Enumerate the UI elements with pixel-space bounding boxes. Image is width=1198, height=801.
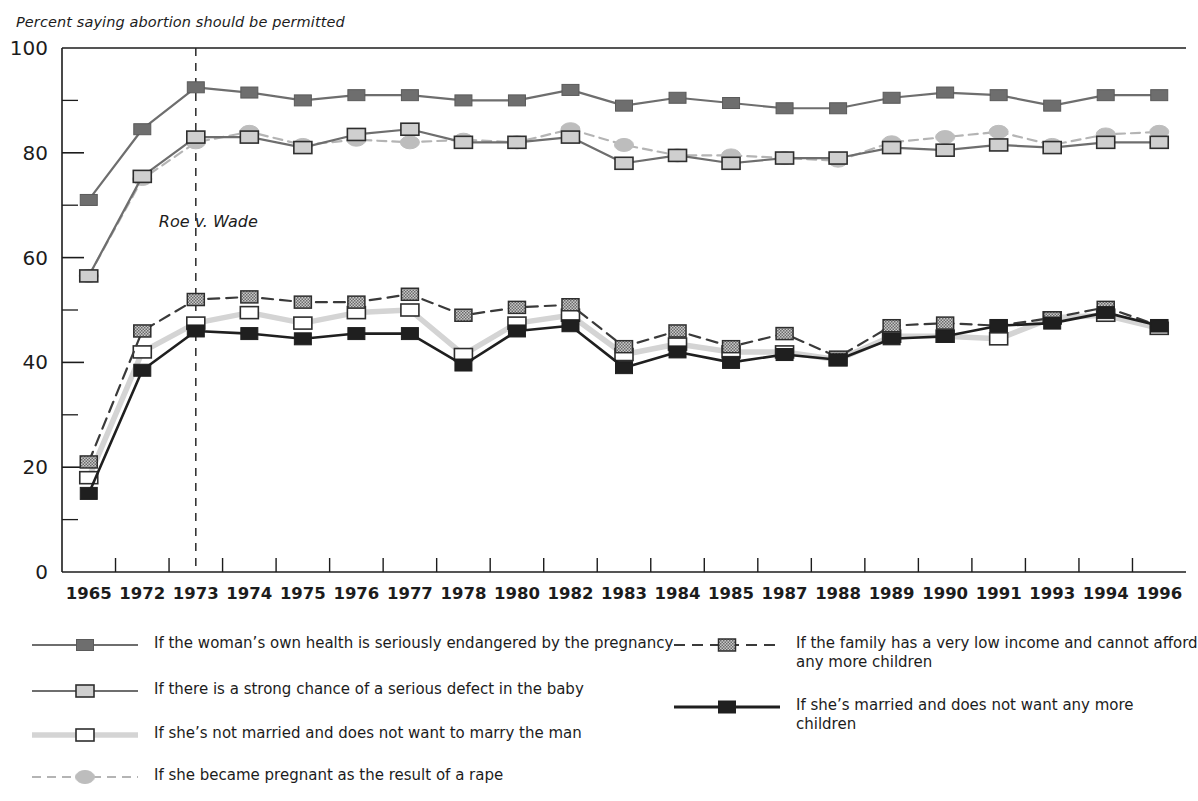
y-tick-label: 80 xyxy=(4,141,48,165)
legend-label-defect: If there is a strong chance of a serious… xyxy=(140,680,584,699)
data-marker xyxy=(240,307,258,319)
x-tick-label: 1978 xyxy=(440,584,486,603)
data-marker xyxy=(455,95,472,106)
legend-swatch-wrap-rape xyxy=(30,766,140,788)
y-tick-label: 40 xyxy=(4,350,48,374)
legend-swatch-low-income xyxy=(672,634,782,656)
data-marker xyxy=(133,346,151,358)
x-tick-label: 1977 xyxy=(387,584,433,603)
data-marker xyxy=(990,90,1007,101)
data-marker xyxy=(348,90,365,101)
x-tick-label: 1990 xyxy=(922,584,968,603)
data-marker xyxy=(722,157,740,169)
data-marker xyxy=(776,328,793,340)
data-marker xyxy=(936,131,955,144)
data-marker xyxy=(936,144,954,156)
data-marker xyxy=(937,330,954,342)
data-marker xyxy=(348,296,365,308)
data-marker xyxy=(134,364,151,376)
x-tick-label: 1989 xyxy=(869,584,915,603)
legend-swatch-wrap-married xyxy=(672,696,782,718)
data-marker xyxy=(294,95,311,106)
legend-swatch-wrap-defect xyxy=(30,680,140,702)
data-marker xyxy=(562,299,579,311)
legend-label-not-married: If she’s not married and does not want t… xyxy=(140,724,582,743)
data-marker xyxy=(562,320,579,332)
data-marker xyxy=(616,341,633,353)
data-marker xyxy=(1097,136,1115,148)
data-marker xyxy=(1097,307,1114,319)
legend-marker-group xyxy=(719,639,736,651)
y-tick-label: 60 xyxy=(4,246,48,270)
legend-item-health[interactable]: If the woman’s own health is seriously e… xyxy=(30,634,673,656)
data-marker xyxy=(830,354,847,366)
legend-item-rape[interactable]: If she became pregnant as the result of … xyxy=(30,766,503,788)
legend-swatch-wrap-health xyxy=(30,634,140,656)
x-tick-label: 1988 xyxy=(815,584,861,603)
data-marker xyxy=(294,142,312,154)
data-marker xyxy=(76,729,94,741)
legend-item-not-married[interactable]: If she’s not married and does not want t… xyxy=(30,724,582,746)
legend-swatch-health xyxy=(30,634,140,656)
data-marker xyxy=(669,325,686,337)
data-marker xyxy=(883,92,900,103)
x-tick-label: 1973 xyxy=(173,584,219,603)
legend-marker-group xyxy=(76,685,94,697)
data-marker xyxy=(187,131,205,143)
x-tick-label: 1980 xyxy=(494,584,540,603)
x-tick-label: 1974 xyxy=(226,584,272,603)
data-marker xyxy=(561,131,579,143)
data-marker xyxy=(400,136,419,149)
x-tick-label: 1996 xyxy=(1136,584,1182,603)
data-marker xyxy=(562,84,579,95)
data-marker xyxy=(76,771,95,784)
legend-item-married[interactable]: If she’s married and does not want any m… xyxy=(672,696,1198,734)
data-marker xyxy=(401,90,418,101)
legend-marker-group xyxy=(76,771,95,784)
x-tick-label: 1983 xyxy=(601,584,647,603)
data-marker xyxy=(241,87,258,98)
data-marker xyxy=(1044,100,1061,111)
data-marker xyxy=(294,333,311,345)
legend-swatch-defect xyxy=(30,680,140,702)
data-marker xyxy=(615,138,634,151)
legend-marker-group xyxy=(719,701,736,713)
legend-swatch-wrap-low-income xyxy=(672,634,782,656)
data-marker xyxy=(719,639,736,651)
data-marker xyxy=(80,456,97,468)
legend-label-married: If she’s married and does not want any m… xyxy=(782,696,1198,734)
data-marker xyxy=(723,341,740,353)
legend-item-low-income[interactable]: If the family has a very low income and … xyxy=(672,634,1198,672)
legend-item-defect[interactable]: If there is a strong chance of a serious… xyxy=(30,680,584,702)
data-marker xyxy=(883,333,900,345)
data-marker xyxy=(80,194,97,205)
data-marker xyxy=(241,328,258,340)
legend-swatch-rape xyxy=(30,766,140,788)
data-marker xyxy=(776,152,794,164)
x-tick-label: 1982 xyxy=(548,584,594,603)
legend-swatch-not-married xyxy=(30,724,140,746)
x-tick-label: 1987 xyxy=(762,584,808,603)
data-marker xyxy=(508,301,525,313)
data-marker xyxy=(508,136,526,148)
data-marker xyxy=(723,98,740,109)
chart-figure: Percent saying abortion should be permit… xyxy=(0,0,1198,801)
chart-legend: If the woman’s own health is seriously e… xyxy=(0,628,1198,801)
data-marker xyxy=(401,288,418,300)
data-marker xyxy=(76,685,94,697)
data-marker xyxy=(990,333,1008,345)
data-marker xyxy=(1150,136,1168,148)
data-marker xyxy=(347,128,365,140)
data-marker xyxy=(187,294,204,306)
roe-v-wade-annotation: Roe v. Wade xyxy=(159,212,258,231)
data-marker xyxy=(616,362,633,374)
y-tick-label: 0 xyxy=(4,560,48,584)
data-marker xyxy=(455,359,472,371)
data-marker xyxy=(883,142,901,154)
data-marker xyxy=(1151,90,1168,101)
data-marker xyxy=(508,95,525,106)
data-marker xyxy=(294,317,312,329)
data-marker xyxy=(134,325,151,337)
data-marker xyxy=(830,103,847,114)
legend-label-health: If the woman’s own health is seriously e… xyxy=(140,634,673,653)
